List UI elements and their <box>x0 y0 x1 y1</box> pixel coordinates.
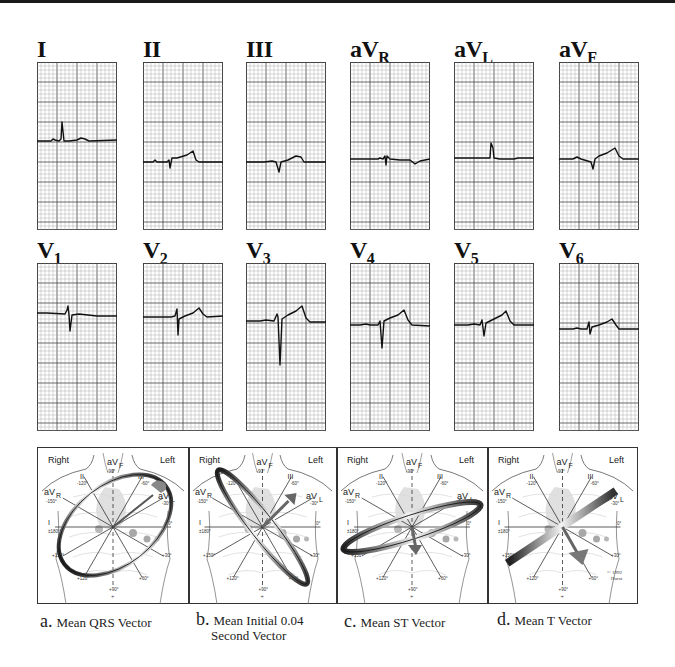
svg-text:+90°: +90° <box>559 587 569 592</box>
svg-text:-120°: -120° <box>376 481 387 486</box>
ecg-strip-V1 <box>37 263 117 431</box>
svg-text:aV: aV <box>557 457 568 467</box>
svg-text:aV: aV <box>107 457 118 467</box>
ecg-grid <box>143 263 223 431</box>
svg-text:-150°: -150° <box>46 499 57 504</box>
ecg-grid <box>37 62 117 230</box>
svg-text:R: R <box>506 492 511 499</box>
svg-text:-30°: -30° <box>611 501 620 506</box>
svg-text:+60°: +60° <box>139 576 149 581</box>
svg-text:+120°: +120° <box>527 576 539 581</box>
ecg-grid <box>37 263 117 431</box>
ecg-grid <box>454 62 534 230</box>
svg-text:I: I <box>48 519 50 526</box>
svg-text:F: F <box>269 462 273 469</box>
svg-text:-30°: -30° <box>310 501 319 506</box>
ecg-strip-aVF <box>559 62 639 230</box>
svg-text:-150°: -150° <box>345 499 356 504</box>
ecg-strip-aVL <box>454 62 534 230</box>
svg-text:-150°: -150° <box>197 499 208 504</box>
lead-label-aVF: aVF <box>559 37 597 61</box>
ecg-grid <box>350 62 430 230</box>
svg-text:Left: Left <box>160 455 176 465</box>
svg-text:±180°: ±180° <box>199 529 211 534</box>
svg-text:+: + <box>261 594 265 600</box>
caption-c: c.Mean ST Vector <box>344 614 445 630</box>
svg-text:±180°: ±180° <box>48 529 60 534</box>
svg-text:Right: Right <box>199 455 221 465</box>
lead-label-III: III <box>246 37 273 61</box>
svg-text:F: F <box>418 462 422 469</box>
svg-text:© 1992: © 1992 <box>607 570 623 575</box>
svg-text:R: R <box>207 492 212 499</box>
ecg-grid <box>143 62 223 230</box>
svg-text:+150°: +150° <box>203 553 215 558</box>
vector-panel-b: Right Left aVF-90°II-120°III-60°aVR-150°… <box>189 447 336 604</box>
svg-text:+30°: +30° <box>461 553 471 558</box>
svg-text:aV: aV <box>306 491 317 501</box>
ecg-strip-V4 <box>350 263 430 431</box>
ecg-strip-III <box>246 62 326 230</box>
svg-text:II: II <box>80 473 84 480</box>
svg-text:0°: 0° <box>617 521 622 526</box>
svg-text:+30°: +30° <box>611 553 621 558</box>
svg-text:±180°: ±180° <box>347 529 359 534</box>
svg-text:II: II <box>379 473 383 480</box>
svg-text:+90°: +90° <box>408 587 418 592</box>
hexaxial-diagram: Right Left aVF-90°II-120°III-60°aVR-150°… <box>488 447 637 604</box>
caption-letter: a. <box>40 611 53 631</box>
lead-label-V4: V4 <box>350 238 374 262</box>
lead-label-V1: V1 <box>37 238 61 262</box>
ecg-strip-II <box>143 62 223 230</box>
hexaxial-diagram: Right Left aVF-90°II-120°III-60°aVR-150°… <box>337 447 487 604</box>
svg-text:aV: aV <box>44 487 55 497</box>
vector-panel-a: Right Left aVF-90°II-120°III-60°aVR-150°… <box>38 447 188 604</box>
vector-panel-d: Right Left aVF-90°II-120°III-60°aVR-150°… <box>488 447 637 604</box>
svg-text:Left: Left <box>609 455 625 465</box>
lead-label-I: I <box>37 37 46 61</box>
svg-text:R: R <box>56 492 61 499</box>
svg-text:+: + <box>561 594 565 600</box>
svg-text:F: F <box>569 462 573 469</box>
lead-label-V5: V5 <box>454 238 478 262</box>
svg-text:III: III <box>288 473 294 480</box>
svg-text:+90°: +90° <box>259 587 269 592</box>
lead-label-V6: V6 <box>559 238 583 262</box>
svg-text:Left: Left <box>459 455 475 465</box>
top-rule <box>0 0 675 3</box>
svg-text:0°: 0° <box>467 521 472 526</box>
hexaxial-diagram: Right Left aVF-90°II-120°III-60°aVR-150°… <box>38 447 188 604</box>
ecg-grid <box>559 62 639 230</box>
svg-text:aV: aV <box>257 457 268 467</box>
svg-text:±180°: ±180° <box>498 529 510 534</box>
svg-text:Hurst: Hurst <box>611 576 623 581</box>
svg-text:+90°: +90° <box>109 587 119 592</box>
ecg-strip-aVR <box>350 62 430 230</box>
svg-text:Right: Right <box>498 455 520 465</box>
ecg-grid <box>454 263 534 431</box>
svg-text:-60°: -60° <box>291 481 300 486</box>
svg-text:aV: aV <box>195 487 206 497</box>
ecg-grid <box>246 62 326 230</box>
caption-letter: d. <box>497 609 511 629</box>
svg-text:III: III <box>588 473 594 480</box>
lead-label-aVL: aVL <box>454 37 493 61</box>
svg-text:-60°: -60° <box>141 481 150 486</box>
svg-text:+: + <box>111 594 115 600</box>
caption-letter: c. <box>344 611 357 631</box>
hexaxial-diagram: Right Left aVF-90°II-120°III-60°aVR-150°… <box>189 447 336 604</box>
svg-text:0°: 0° <box>316 521 321 526</box>
svg-text:Right: Right <box>48 455 70 465</box>
svg-text:+120°: +120° <box>376 576 388 581</box>
svg-text:F: F <box>119 462 123 469</box>
svg-text:I: I <box>199 519 201 526</box>
ecg-strip-V5 <box>454 263 534 431</box>
vector-panel-c: Right Left aVF-90°II-120°III-60°aVR-150°… <box>337 447 487 604</box>
svg-text:II: II <box>530 473 534 480</box>
svg-text:+: + <box>410 594 414 600</box>
svg-text:-90°: -90° <box>257 469 266 474</box>
svg-text:+120°: +120° <box>227 576 239 581</box>
lead-label-II: II <box>143 37 161 61</box>
svg-text:L: L <box>620 496 624 503</box>
ecg-strip-V6 <box>559 263 639 431</box>
